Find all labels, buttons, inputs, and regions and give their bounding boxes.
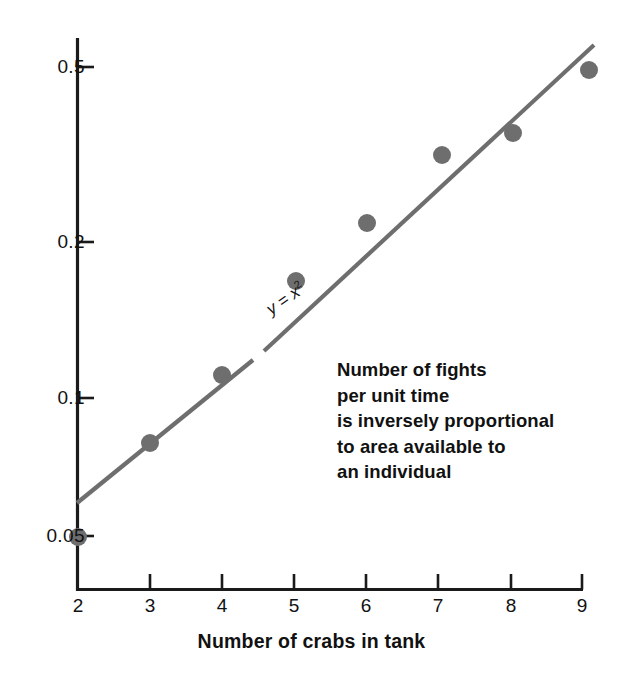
data-point-x4 (213, 366, 231, 384)
x-axis-title: Number of crabs in tank (0, 630, 623, 653)
y-tick-label-0-05: 0.05 (5, 525, 85, 547)
data-point-x8 (504, 124, 522, 142)
x-tick-label-8: 8 (497, 595, 525, 617)
data-point-x6 (358, 214, 376, 232)
chart-figure: 0.5 0.2 0.1 0.05 2 3 4 5 6 7 8 9 Number … (0, 0, 623, 675)
x-tick-label-7: 7 (424, 595, 452, 617)
x-axis-ticks (150, 574, 582, 590)
annotation-line-4: to area available to (337, 434, 554, 460)
annotation-line-5: an individual (337, 459, 554, 485)
y-tick-label-0-2: 0.2 (5, 231, 85, 253)
x-tick-label-6: 6 (352, 595, 380, 617)
x-tick-label-9: 9 (568, 595, 596, 617)
annotation-line-2: per unit time (337, 383, 554, 409)
annotation-line-3: is inversely proportional (337, 408, 554, 434)
y-tick-label-0-5: 0.5 (5, 56, 85, 78)
chart-annotation: Number of fights per unit time is invers… (337, 357, 554, 485)
y-tick-label-0-1: 0.1 (5, 387, 85, 409)
x-tick-label-2: 2 (64, 595, 92, 617)
fit-line-upper-segment (264, 45, 594, 351)
x-tick-label-3: 3 (136, 595, 164, 617)
chart-canvas (0, 0, 623, 675)
data-point-x7 (433, 146, 451, 164)
data-point-x9 (580, 61, 598, 79)
y-axis-ticks (78, 67, 95, 536)
axis-lines (76, 38, 583, 591)
data-point-x3 (141, 434, 159, 452)
x-tick-label-4: 4 (208, 595, 236, 617)
x-tick-label-5: 5 (280, 595, 308, 617)
annotation-line-1: Number of fights (337, 357, 554, 383)
